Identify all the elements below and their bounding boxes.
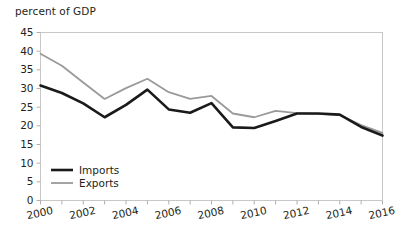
y-tick-label: 35 (20, 63, 33, 75)
x-axis-tick-labels: 200020022004200620082010201220142016 (25, 204, 396, 221)
x-tick-label: 2016 (367, 204, 396, 221)
x-tick-label: 2000 (25, 204, 54, 221)
x-tick-label: 2008 (196, 204, 225, 221)
y-tick-label: 25 (20, 101, 33, 113)
x-tick-label: 2014 (325, 204, 354, 221)
x-tick-label: 2010 (239, 204, 268, 221)
y-tick-label: 30 (20, 82, 33, 94)
y-axis-tick-labels: 051015202530354045 (20, 26, 33, 206)
x-tick-label: 2006 (154, 204, 183, 221)
y-tick-label: 0 (27, 194, 34, 206)
chart-plot-area: 051015202530354045 200020022004200620082… (0, 0, 402, 233)
x-tick-label: 2004 (111, 204, 140, 221)
y-tick-label: 45 (20, 26, 33, 38)
legend-label-exports: Exports (79, 177, 119, 189)
legend-label-imports: Imports (79, 164, 119, 176)
y-tick-label: 40 (20, 45, 33, 57)
x-tick-label: 2002 (68, 204, 97, 221)
chart-figure: percent of GDP 051015202530354045 200020… (0, 0, 402, 233)
y-tick-label: 10 (20, 157, 33, 169)
y-tick-label: 5 (27, 175, 34, 187)
y-axis-ticks (37, 33, 41, 201)
x-tick-label: 2012 (282, 204, 311, 221)
y-tick-label: 15 (20, 138, 33, 150)
y-tick-label: 20 (20, 119, 33, 131)
